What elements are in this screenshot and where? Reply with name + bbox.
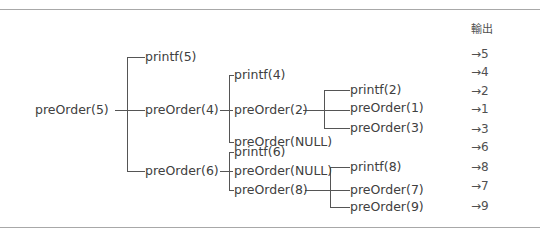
output-item: →2 (471, 84, 489, 98)
output-header: 輸出 (471, 23, 493, 37)
output-item: →8 (471, 160, 489, 174)
output-item: →3 (471, 122, 489, 136)
node-preorder-6: preOrder(6) (145, 164, 219, 178)
output-item: →1 (471, 102, 489, 116)
node-preorder-2: preOrder(2) (234, 103, 308, 117)
node-preorder-7: preOrder(7) (350, 183, 424, 197)
output-item: →9 (471, 199, 489, 213)
node-printf-8: printf(8) (350, 160, 401, 174)
output-item: →6 (471, 140, 489, 154)
output-item: →5 (471, 47, 489, 61)
node-printf-2: printf(2) (350, 83, 401, 97)
output-item: →4 (471, 65, 489, 79)
node-preorder-8: preOrder(8) (234, 183, 308, 197)
output-item: →7 (471, 179, 489, 193)
node-printf-4: printf(4) (234, 68, 285, 82)
node-preorder-4: preOrder(4) (145, 103, 219, 117)
node-preorder-3: preOrder(3) (350, 121, 424, 135)
node-root: preOrder(5) (35, 103, 109, 117)
node-preorder-null-b: preOrder(NULL) (234, 164, 332, 178)
node-printf-6: printf(6) (234, 145, 285, 159)
node-preorder-1: preOrder(1) (350, 101, 424, 115)
node-preorder-9: preOrder(9) (350, 200, 424, 214)
node-printf-5: printf(5) (145, 50, 196, 64)
